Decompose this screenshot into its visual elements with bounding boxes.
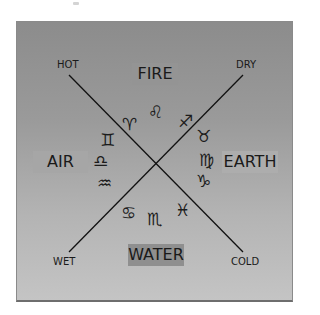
element-fire-label: FIRE (132, 63, 178, 85)
pisces-icon: ♓ (175, 201, 190, 219)
virgo-icon: ♍ (199, 151, 214, 169)
element-air-label: AIR (33, 151, 88, 173)
gemini-icon: ♊ (100, 131, 115, 149)
aries-icon: ♈ (122, 115, 137, 133)
scorpio-icon: ♏ (147, 210, 162, 228)
aquarius-icon: ♒ (97, 174, 112, 192)
quality-hot-label: HOT (57, 59, 79, 70)
cancer-icon: ♋ (121, 204, 136, 222)
taurus-icon: ♉ (196, 127, 211, 145)
sagittarius-icon: ♐ (178, 112, 193, 130)
libra-icon: ♎ (93, 152, 108, 170)
leo-icon: ♌ (148, 103, 163, 121)
quality-cold-label: COLD (231, 256, 259, 267)
element-water-label: WATER (128, 244, 184, 266)
quality-wet-label: WET (53, 256, 75, 267)
element-earth-label: EARTH (222, 151, 278, 173)
capricorn-icon: ♑ (196, 172, 211, 190)
quality-dry-label: DRY (236, 59, 256, 70)
